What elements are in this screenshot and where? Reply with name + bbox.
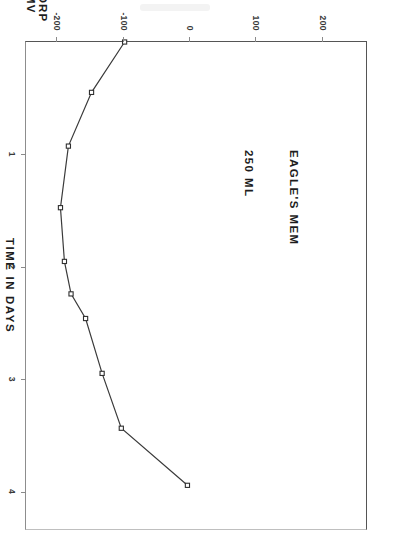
x-axis-tick-label: 4 [7, 489, 17, 494]
scanned-figure-page: ORP MV TIME IN DAYS EAGLE'S MEM 250 ML 1… [0, 0, 400, 554]
rotated-figure-container: ORP MV TIME IN DAYS EAGLE'S MEM 250 ML 1… [0, 0, 400, 554]
plot-inner: EAGLE'S MEM 250 ML 12342001000-100-200 [26, 42, 366, 529]
data-point-marker [69, 292, 73, 296]
data-point-marker [100, 371, 104, 375]
y-axis-title-line2: MV [24, 0, 36, 22]
y-axis-tick-label: -100 [119, 12, 129, 31]
data-point-marker [62, 259, 66, 263]
data-point-marker [185, 483, 189, 487]
data-point-marker [83, 316, 87, 320]
x-axis-tick [21, 379, 26, 380]
y-axis-title-line1: ORP [36, 0, 48, 22]
data-point-marker [66, 144, 70, 148]
data-point-marker [58, 206, 62, 210]
x-axis-tick-label: 1 [7, 152, 17, 157]
x-axis-tick-label: 2 [7, 264, 17, 269]
y-axis-title: ORP MV [24, 0, 48, 22]
data-point-marker [119, 426, 123, 430]
y-axis-tick [322, 37, 323, 42]
y-axis-tick [56, 37, 57, 42]
x-axis-tick [21, 267, 26, 268]
x-axis-tick [21, 154, 26, 155]
x-axis-tick [21, 492, 26, 493]
x-axis-title: TIME IN DAYS [4, 41, 16, 530]
y-axis-tick-label: 100 [251, 16, 261, 31]
y-axis-tick-label: -200 [52, 12, 62, 31]
x-axis-tick-label: 3 [7, 377, 17, 382]
y-axis-tick [255, 37, 256, 42]
plot-frame: EAGLE'S MEM 250 ML 12342001000-100-200 [25, 41, 367, 530]
data-point-marker [89, 90, 93, 94]
data-series [25, 42, 366, 529]
chart-area: ORP MV TIME IN DAYS EAGLE'S MEM 250 ML 1… [0, 0, 400, 554]
y-axis-tick [189, 37, 190, 42]
series-line [60, 42, 187, 485]
y-axis-tick-label: 0 [185, 26, 195, 31]
y-axis-tick [123, 37, 124, 42]
y-axis-tick-label: 200 [318, 16, 328, 31]
